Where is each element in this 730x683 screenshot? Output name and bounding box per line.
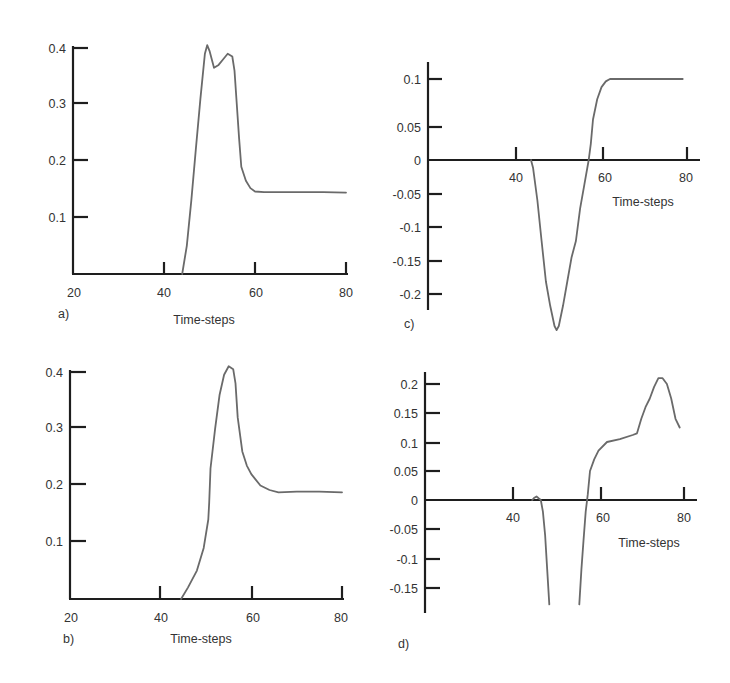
y-tick-label: 0.1 [404,73,421,87]
y-tick-label: 0.1 [46,535,63,549]
panel-label: a) [58,307,69,321]
figure: 0.4 0.3 0.2 0.1 20 40 60 80 a) Time-step… [0,0,730,683]
y-tick-label: 0.1 [401,437,418,451]
data-curve [532,378,680,604]
x-tick-label: 40 [506,511,520,525]
y-tick-label: 0 [411,494,418,508]
y-tick-label: -0.2 [399,288,421,302]
y-tick-label: 0.15 [394,407,418,421]
y-tick-label: 0.05 [397,121,421,135]
x-tick-label: 80 [677,511,691,525]
x-tick-label: 60 [596,511,610,525]
y-tick-label: 0.2 [46,478,63,492]
y-tick-label: 0.4 [49,42,66,56]
y-tick-label: 0.3 [49,97,66,111]
y-tick-label: 0 [414,154,421,168]
panel-b: 0.4 0.3 0.2 0.1 20 40 60 80 b) Time-step… [46,366,348,646]
data-curve [182,45,346,274]
x-tick-label: 40 [157,286,171,300]
y-tick-label: -0.05 [390,523,419,537]
x-tick-label: 80 [679,171,693,185]
panel-label: c) [404,317,414,331]
y-tick-label: -0.1 [399,221,421,235]
y-tick-label: 0.3 [46,421,63,435]
y-tick-label: -0.15 [390,582,419,596]
panel-c: 0.1 0.05 0 -0.05 -0.1 -0.15 -0.2 40 60 8… [393,62,701,331]
y-tick-label: -0.1 [396,553,418,567]
x-tick-label: 20 [67,286,81,300]
data-curve [181,366,342,599]
panel-label: b) [63,632,74,646]
x-tick-label: 80 [339,286,353,300]
panel-a: 0.4 0.3 0.2 0.1 20 40 60 80 a) Time-step… [49,42,353,327]
y-tick-label: -0.05 [393,188,422,202]
x-axis-title: Time-steps [612,195,673,209]
x-tick-label: 20 [64,611,78,625]
x-tick-label: 40 [509,171,523,185]
y-tick-label: 0.2 [49,154,66,168]
panel-label: d) [398,637,409,651]
x-axis-title: Time-steps [173,313,234,327]
x-axis-title: Time-steps [618,536,679,550]
y-tick-label: 0.2 [401,378,418,392]
x-axis-title: Time-steps [170,632,231,646]
y-tick-label: 0.4 [46,366,63,380]
y-tick-label: -0.15 [393,255,422,269]
y-tick-label: 0.05 [394,465,418,479]
x-tick-label: 40 [154,611,168,625]
x-tick-label: 60 [246,611,260,625]
x-tick-label: 80 [334,611,348,625]
x-tick-label: 60 [598,171,612,185]
y-tick-label: 0.1 [49,211,66,225]
x-tick-label: 60 [249,286,263,300]
panel-d: 0.2 0.15 0.1 0.05 0 -0.05 -0.1 -0.15 40 … [390,372,698,651]
